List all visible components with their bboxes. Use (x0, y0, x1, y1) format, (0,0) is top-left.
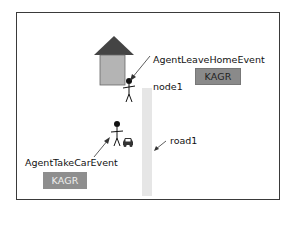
kagr-badge-leave-home: KAGR (195, 68, 241, 85)
road1-arrow-icon (153, 140, 167, 152)
event-label-take-car: AgentTakeCarEvent (25, 158, 118, 168)
leave-home-arrow-icon (128, 54, 152, 82)
road1-label: road1 (170, 136, 197, 146)
event-label-leave-home: AgentLeaveHomeEvent (153, 55, 265, 65)
car-icon (122, 136, 134, 147)
kagr-badge-take-car: KAGR (43, 172, 87, 189)
road1-shape (142, 88, 152, 196)
node1-label: node1 (153, 82, 183, 92)
take-car-arrow-icon (92, 136, 112, 158)
